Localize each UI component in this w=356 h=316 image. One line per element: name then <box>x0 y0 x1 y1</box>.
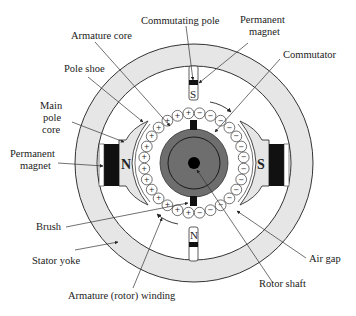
conductor-sign: − <box>233 186 239 194</box>
conductor-sign: + <box>156 124 162 132</box>
label-rotor-shaft: Rotor shaft <box>259 278 306 289</box>
conductor-sign: + <box>144 143 150 151</box>
left-pole-letter: N <box>121 157 131 172</box>
label-main-pole-core-1: Main <box>40 100 63 111</box>
bottom-commutating-letter: N <box>190 229 198 241</box>
conductor-sign: − <box>233 132 239 140</box>
conductor-sign: − <box>197 109 203 117</box>
conductor-sign: − <box>208 206 214 214</box>
bottom-brush <box>190 196 197 206</box>
motor-diagram: N S S N −−−−−−−−−−−−−−++++++++++++++ <box>0 0 356 316</box>
conductor-sign: + <box>175 112 181 120</box>
conductor-sign: + <box>141 165 147 173</box>
conductor-sign: + <box>185 209 191 217</box>
rotor-shaft <box>188 157 200 169</box>
label-permanent-magnet-top-1: Permanent <box>240 14 285 25</box>
conductor-sign: − <box>241 165 247 173</box>
conductor-sign: − <box>226 124 232 132</box>
conductor-sign: + <box>175 206 181 214</box>
top-brush <box>190 120 197 130</box>
bottom-commutating-pole: N <box>189 227 198 261</box>
label-armature-core: Armature core <box>71 30 132 41</box>
conductor-sign: − <box>241 153 247 161</box>
label-permanent-magnet-left-2: magnet <box>20 160 51 171</box>
left-permanent-magnet <box>104 144 119 186</box>
conductor-sign: + <box>149 186 155 194</box>
conductor-sign: + <box>156 194 162 202</box>
conductor-sign: + <box>141 153 147 161</box>
label-permanent-magnet-left-1: Permanent <box>10 148 55 159</box>
label-air-gap: Air gap <box>309 253 341 264</box>
label-main-pole-core-2: pole <box>43 112 61 123</box>
label-pole-shoe: Pole shoe <box>64 63 105 74</box>
armature-rotor <box>160 129 228 197</box>
conductor-sign: − <box>238 143 244 151</box>
conductor-sign: + <box>185 109 191 117</box>
label-commutating-pole: Commutating pole <box>141 15 220 26</box>
conductor-sign: − <box>226 194 232 202</box>
label-armature-winding: Armature (rotor) winding <box>68 290 176 302</box>
conductor-sign: + <box>149 132 155 140</box>
top-commutating-letter: S <box>190 88 196 100</box>
right-permanent-magnet <box>269 144 284 186</box>
right-pole-letter: S <box>257 157 265 172</box>
conductor-sign: + <box>144 176 150 184</box>
conductor-sign: − <box>197 209 203 217</box>
conductor-sign: − <box>238 176 244 184</box>
conductor-sign: + <box>164 201 170 209</box>
label-brush: Brush <box>36 221 62 232</box>
label-commutator: Commutator <box>283 49 337 60</box>
label-stator-yoke: Stator yoke <box>32 255 80 266</box>
label-main-pole-core-3: core <box>42 124 60 135</box>
label-permanent-magnet-top-2: magnet <box>249 26 280 37</box>
conductor-sign: − <box>208 112 214 120</box>
top-commutating-pole: S <box>189 66 198 100</box>
